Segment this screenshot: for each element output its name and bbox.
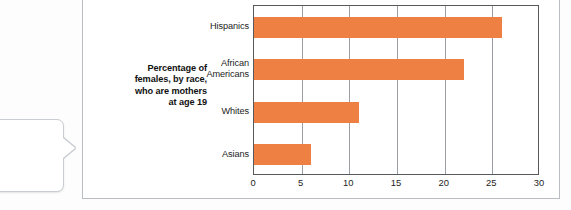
x-tick-label: 5 (298, 177, 303, 188)
figure-frame: Percentage offemales, by race,who are mo… (82, 0, 560, 199)
x-tick-label: 15 (391, 177, 401, 188)
bar (254, 59, 464, 80)
category-label-line: Americans (183, 69, 249, 79)
category-label-column: HispanicsAfricanAmericansWhitesAsians (183, 5, 249, 175)
x-tick-label: 30 (534, 177, 544, 188)
category-label-line: Hispanics (183, 21, 249, 31)
margin-callout-text: regnancyerican teen-nt differsbcultures2… (0, 126, 57, 184)
callout-pointer-icon (63, 138, 75, 158)
category-label: AfricanAmericans (183, 58, 249, 79)
category-label: Hispanics (183, 21, 249, 31)
gridline (540, 6, 541, 174)
callout-line: regnancy (0, 126, 57, 138)
callout-line: erican teen- (0, 138, 57, 150)
bar (254, 17, 502, 38)
category-label: Asians (183, 149, 249, 159)
x-tick-label: 10 (343, 177, 353, 188)
callout-line: 2009]. (0, 172, 57, 184)
x-tick-label: 20 (438, 177, 448, 188)
callout-line: nt differs (0, 149, 57, 161)
plot-area (253, 5, 539, 175)
callout-line: bcultures (0, 161, 57, 173)
category-label: Whites (183, 106, 249, 116)
category-label-line: Whites (183, 106, 249, 116)
category-label-line: Asians (183, 149, 249, 159)
x-axis-tick-labels: 051015202530 (253, 177, 539, 193)
bar (254, 102, 359, 123)
margin-callout-box: regnancyerican teen-nt differsbcultures2… (0, 119, 64, 192)
x-tick-label: 0 (250, 177, 255, 188)
bar (254, 144, 311, 165)
category-label-line: African (183, 58, 249, 68)
x-tick-label: 25 (486, 177, 496, 188)
bar-series (254, 6, 538, 174)
